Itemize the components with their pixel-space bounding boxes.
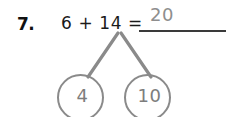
- worksheet-problem: 7. 6 + 14 = 20 4 10: [0, 0, 228, 117]
- number-bond-value-left: 4: [59, 87, 106, 105]
- number-bond-circle-left[interactable]: 4: [57, 74, 104, 117]
- number-bond-circle-right[interactable]: 10: [124, 74, 171, 117]
- branch-line-left: [88, 33, 118, 77]
- number-bond-value-right: 10: [126, 87, 173, 105]
- branch-line-right: [121, 33, 151, 77]
- number-bond-branch-lines: [0, 0, 228, 117]
